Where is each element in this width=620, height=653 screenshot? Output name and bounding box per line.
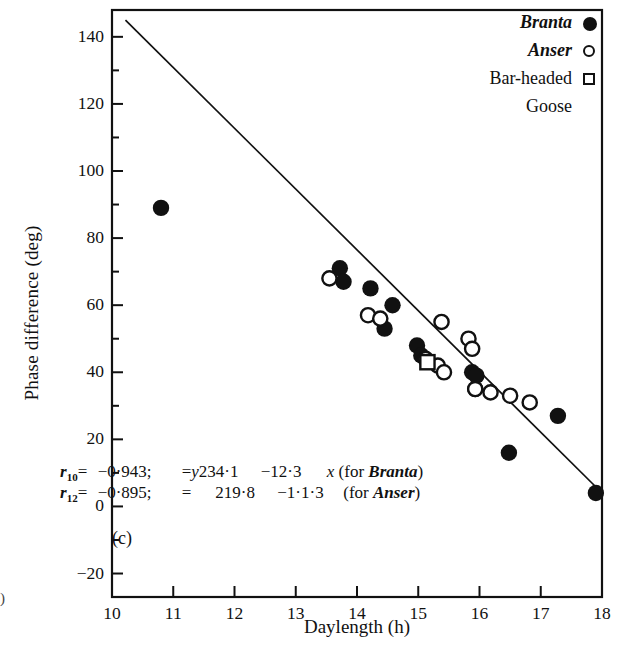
group-branta: (for Branta) bbox=[339, 462, 424, 481]
legend-item-barheaded-goose: Bar-headed bbox=[398, 68, 598, 96]
data-point-branta bbox=[335, 273, 351, 289]
equation-row-anser: r12=−0·895;=219·8−1·1·3(for Anser) bbox=[60, 482, 423, 503]
data-point-anser bbox=[483, 385, 497, 399]
intercept-branta: 234·1 bbox=[199, 461, 261, 482]
data-point-anser bbox=[322, 271, 336, 285]
x-tick-label: 15 bbox=[398, 603, 438, 624]
data-point-bar-headed-goose bbox=[420, 355, 434, 369]
data-point-anser bbox=[503, 389, 517, 403]
x-tick-label: 13 bbox=[276, 603, 316, 624]
x-symbol-1: x bbox=[327, 462, 335, 481]
y-tick-label: 140 bbox=[38, 26, 104, 47]
open-square-icon bbox=[583, 73, 598, 88]
x-tick-label: 12 bbox=[215, 603, 255, 624]
y-tick-label: 40 bbox=[38, 361, 104, 382]
page-edge-mark: ) bbox=[0, 590, 5, 607]
x-tick-label: 16 bbox=[460, 603, 500, 624]
figure-panel-c: Phase difference (deg) Daylength (h) Bra… bbox=[0, 0, 620, 653]
y-tick-label: 0 bbox=[38, 495, 104, 516]
data-point-anser bbox=[373, 311, 387, 325]
slope-branta: −12·3 bbox=[261, 461, 327, 482]
legend-label-goose: Goose bbox=[526, 96, 572, 117]
data-point-anser bbox=[468, 382, 482, 396]
eq-equals-4: = bbox=[182, 483, 192, 502]
x-tick-label: 17 bbox=[521, 603, 561, 624]
legend-item-anser: Anser bbox=[398, 40, 598, 68]
data-point-anser bbox=[523, 395, 537, 409]
axis-ticks bbox=[112, 37, 602, 597]
y-tick-label: 100 bbox=[38, 160, 104, 181]
x-tick-label: 18 bbox=[582, 603, 620, 624]
data-point-branta bbox=[362, 280, 378, 296]
eq-equals-2: = bbox=[182, 462, 192, 481]
data-point-branta bbox=[588, 485, 604, 501]
y-tick-label: 120 bbox=[38, 93, 104, 114]
y-tick-label: 20 bbox=[38, 428, 104, 449]
data-point-branta bbox=[550, 408, 566, 424]
data-point-branta bbox=[384, 297, 400, 313]
legend: Branta Anser Bar-headed Goose bbox=[398, 12, 598, 96]
y-tick-label: 60 bbox=[38, 294, 104, 315]
group-anser: (for Anser) bbox=[343, 483, 420, 502]
eq-equals-1: = bbox=[78, 461, 98, 482]
data-points bbox=[153, 200, 604, 502]
open-circle-icon bbox=[583, 45, 598, 60]
legend-label-branta: Branta bbox=[520, 12, 572, 33]
equation-row-branta: r10=−0·943;=y234·1−12·3x (for Branta) bbox=[60, 461, 423, 482]
y-tick-label: 80 bbox=[38, 227, 104, 248]
x-tick-label: 10 bbox=[92, 603, 132, 624]
data-point-anser bbox=[465, 342, 479, 356]
x-tick-label: 14 bbox=[337, 603, 377, 624]
y-tick-label: −20 bbox=[38, 563, 104, 584]
legend-item-branta: Branta bbox=[398, 12, 598, 40]
data-point-anser bbox=[434, 315, 448, 329]
legend-label-anser: Anser bbox=[528, 40, 572, 61]
regression-equations: r10=−0·943;=y234·1−12·3x (for Branta) r1… bbox=[60, 461, 423, 503]
legend-label-barheaded: Bar-headed bbox=[489, 68, 572, 89]
data-point-anser bbox=[437, 365, 451, 379]
y-symbol-1: y bbox=[191, 462, 199, 481]
r10-symbol: r10 bbox=[60, 462, 78, 481]
filled-circle-icon bbox=[583, 17, 598, 32]
x-tick-label: 11 bbox=[153, 603, 193, 624]
r10-value: −0·943; bbox=[98, 461, 182, 482]
intercept-anser: 219·8 bbox=[215, 482, 277, 503]
data-point-branta bbox=[501, 445, 517, 461]
slope-anser: −1·1·3 bbox=[277, 482, 343, 503]
r12-value: −0·895; bbox=[98, 482, 182, 503]
data-point-branta bbox=[153, 200, 169, 216]
panel-label: (c) bbox=[112, 528, 132, 549]
